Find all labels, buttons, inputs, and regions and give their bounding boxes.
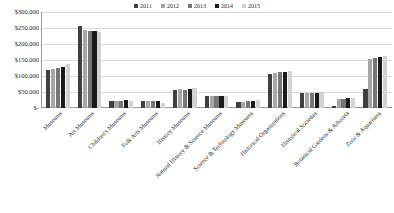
bar[interactable]: [156, 101, 160, 108]
bar[interactable]: [373, 58, 377, 108]
legend-swatch-icon: [188, 4, 192, 8]
x-axis-label: Zoos & Aquariums: [344, 110, 382, 148]
bar-group: [328, 12, 360, 108]
bar[interactable]: [92, 31, 96, 108]
bar-group: [201, 12, 233, 108]
bar[interactable]: [146, 101, 150, 108]
bar[interactable]: [346, 98, 350, 108]
legend-swatch-icon: [242, 4, 246, 8]
y-axis: $300,000$250,000$200,000$150,000$100,000…: [0, 12, 40, 108]
y-axis-tick-label: $150,000: [15, 57, 39, 64]
bar[interactable]: [315, 93, 319, 108]
bar[interactable]: [273, 73, 277, 108]
y-axis-tick-label: $-: [34, 105, 39, 112]
bar[interactable]: [283, 72, 287, 108]
bar[interactable]: [83, 30, 87, 108]
legend-swatch-icon: [215, 4, 219, 8]
bar[interactable]: [236, 102, 240, 108]
bar[interactable]: [109, 101, 113, 108]
legend-item-2014[interactable]: 2014: [215, 3, 233, 9]
bar[interactable]: [56, 68, 60, 108]
x-axis-label: Science & Technology Museums: [193, 110, 255, 172]
y-axis-tick-label: $250,000: [15, 25, 39, 32]
bar[interactable]: [246, 101, 250, 108]
bar[interactable]: [51, 69, 55, 108]
bar[interactable]: [178, 89, 182, 108]
bar[interactable]: [97, 32, 101, 108]
bar[interactable]: [210, 96, 214, 108]
y-axis-tick-label: $100,000: [15, 73, 39, 80]
bar[interactable]: [66, 64, 70, 108]
x-axis-label: Museums: [42, 110, 64, 132]
bar-group: [296, 12, 328, 108]
bar[interactable]: [241, 102, 245, 108]
legend-label: 2013: [194, 3, 206, 9]
bar-groups: [41, 12, 392, 108]
legend-item-2011[interactable]: 2011: [134, 3, 152, 9]
bar-group: [74, 12, 106, 108]
legend-item-2013[interactable]: 2013: [188, 3, 206, 9]
legend-item-2015[interactable]: 2015: [242, 3, 260, 9]
bar[interactable]: [46, 70, 50, 108]
legend-label: 2015: [248, 3, 260, 9]
bar[interactable]: [341, 99, 345, 108]
bar[interactable]: [305, 93, 309, 108]
bar-group: [42, 12, 74, 108]
y-axis-tick-label: $50,000: [18, 89, 39, 96]
bar[interactable]: [114, 101, 118, 108]
legend-label: 2012: [167, 3, 179, 9]
bar[interactable]: [332, 106, 336, 108]
legend-label: 2011: [140, 3, 152, 9]
y-axis-tick-label: $300,000: [15, 9, 39, 16]
x-axis-label: Botanical Gardens & Arboreta: [293, 110, 351, 168]
bar[interactable]: [383, 56, 387, 108]
bar[interactable]: [78, 26, 82, 108]
bar-group: [359, 12, 391, 108]
bar[interactable]: [61, 67, 65, 108]
bar[interactable]: [288, 71, 292, 108]
plot-area: [41, 12, 392, 108]
bar-chart: 20112012201320142015 $300,000$250,000$20…: [0, 0, 394, 213]
bar[interactable]: [363, 89, 367, 108]
bar[interactable]: [129, 101, 133, 108]
bar[interactable]: [300, 93, 304, 108]
bar[interactable]: [378, 57, 382, 108]
bar[interactable]: [183, 90, 187, 108]
x-axis-category-labels: MuseumsArt MuseumsChildren's MuseumsFolk…: [41, 110, 392, 210]
bar-group: [169, 12, 201, 108]
bar[interactable]: [219, 96, 223, 108]
bar[interactable]: [268, 74, 272, 108]
bar[interactable]: [251, 101, 255, 108]
bar[interactable]: [319, 92, 323, 108]
legend-swatch-icon: [161, 4, 165, 8]
bar[interactable]: [88, 31, 92, 108]
legend-swatch-icon: [134, 4, 138, 8]
bar[interactable]: [173, 90, 177, 108]
y-axis-tick-label: $200,000: [15, 41, 39, 48]
bar[interactable]: [224, 96, 228, 108]
bar[interactable]: [337, 99, 341, 108]
bar-group: [105, 12, 137, 108]
bar[interactable]: [141, 101, 145, 108]
bar[interactable]: [368, 59, 372, 108]
bar[interactable]: [188, 89, 192, 108]
bar[interactable]: [278, 72, 282, 108]
legend-item-2012[interactable]: 2012: [161, 3, 179, 9]
bar-group: [137, 12, 169, 108]
bar[interactable]: [119, 101, 123, 108]
legend-label: 2014: [221, 3, 233, 9]
x-axis-label: Art Museums: [67, 110, 95, 138]
bar[interactable]: [205, 96, 209, 108]
bar-group: [232, 12, 264, 108]
bar[interactable]: [310, 93, 314, 108]
bar[interactable]: [161, 103, 165, 108]
bar[interactable]: [151, 101, 155, 108]
bar[interactable]: [256, 100, 260, 108]
bar[interactable]: [192, 88, 196, 108]
bar[interactable]: [124, 100, 128, 108]
bar[interactable]: [351, 98, 355, 108]
bar-group: [264, 12, 296, 108]
bar[interactable]: [214, 96, 218, 108]
chart-legend: 20112012201320142015: [0, 1, 394, 11]
